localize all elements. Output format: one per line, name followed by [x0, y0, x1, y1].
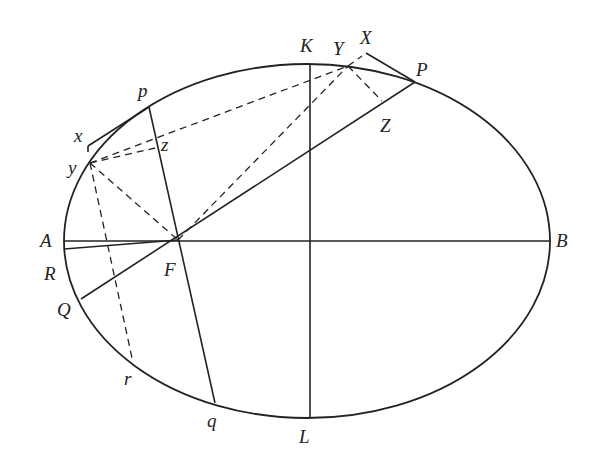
line-chord-PQ [81, 82, 415, 299]
point-label-L: L [298, 426, 310, 447]
point-label-r: r [124, 368, 132, 389]
line-chord-pq [149, 107, 215, 403]
dashed-FY [178, 66, 348, 240]
point-label-Q: Q [57, 299, 71, 320]
line-tangent-xp [88, 107, 149, 146]
line-tangent-XP [366, 53, 415, 82]
point-label-A: A [38, 230, 52, 251]
point-label-X: X [359, 27, 373, 48]
point-label-F: F [163, 259, 176, 280]
point-label-K: K [299, 35, 314, 56]
ellipse-diagram: KYXPZpxzyABRFQrqL [0, 0, 600, 469]
point-label-p: p [136, 80, 148, 101]
point-label-Y: Y [333, 38, 346, 59]
point-label-R: R [43, 263, 56, 284]
point-label-x: x [73, 125, 83, 146]
point-label-B: B [556, 230, 568, 251]
point-label-P: P [415, 59, 428, 80]
point-label-y: y [66, 157, 77, 178]
diagram-canvas: KYXPZpxzyABRFQrqL [0, 0, 600, 469]
dashed-YX [348, 56, 362, 66]
point-label-Z: Z [380, 115, 391, 136]
point-label-z: z [160, 134, 169, 155]
dashed-yz [90, 148, 155, 163]
point-label-q: q [207, 410, 217, 431]
